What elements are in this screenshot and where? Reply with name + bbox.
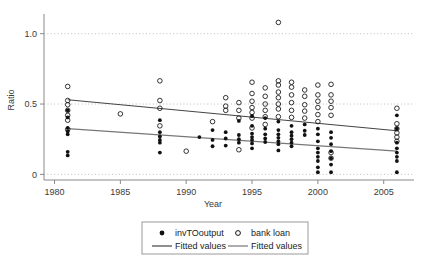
y-axis-title: Ratio bbox=[6, 89, 16, 110]
x-tick-label: 1985 bbox=[110, 187, 130, 197]
y-tick-label: 0 bbox=[32, 170, 37, 180]
y-tick-label: 1.0 bbox=[24, 29, 37, 39]
y-tick-label: 0.5 bbox=[24, 99, 37, 109]
scatter-chart: 198019851990199520002005 00.51.0 Year Ra… bbox=[0, 0, 426, 265]
x-tick-label: 2005 bbox=[374, 187, 394, 197]
chart-container: 198019851990199520002005 00.51.0 Year Ra… bbox=[0, 0, 426, 265]
x-axis-title: Year bbox=[204, 199, 222, 209]
chart-legend: invTOoutput bank loan Fitted values Fitt… bbox=[142, 222, 308, 254]
x-tick-label: 1980 bbox=[45, 187, 65, 197]
legend-label-invtooutput: invTOoutput bbox=[175, 228, 224, 238]
x-tick-label: 1990 bbox=[176, 187, 196, 197]
legend-label-bank-loan: bank loan bbox=[251, 228, 290, 238]
legend-label-fitted-values-invtooutput: Fitted values bbox=[175, 241, 227, 251]
x-tick-label: 1995 bbox=[242, 187, 262, 197]
x-tick-label: 2000 bbox=[308, 187, 328, 197]
legend-marker-invtooutput-icon bbox=[160, 231, 165, 236]
legend-label-fitted-values-bank-loan: Fitted values bbox=[251, 241, 303, 251]
